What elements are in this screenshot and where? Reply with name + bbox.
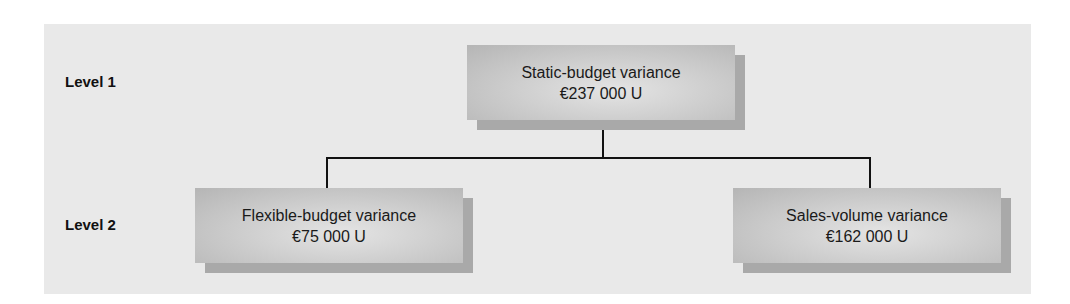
node-box: Sales-volume variance €162 000 U bbox=[733, 188, 1001, 263]
node-flexible-budget-variance: Flexible-budget variance €75 000 U bbox=[195, 188, 463, 263]
node-value: €75 000 U bbox=[292, 226, 366, 247]
node-box: Flexible-budget variance €75 000 U bbox=[195, 188, 463, 263]
level-2-label: Level 2 bbox=[65, 216, 116, 233]
level-1-label: Level 1 bbox=[65, 73, 116, 90]
node-box: Static-budget variance €237 000 U bbox=[467, 45, 735, 120]
connector-horizontal bbox=[326, 157, 871, 159]
node-value: €237 000 U bbox=[560, 83, 643, 104]
connector-left-drop bbox=[326, 157, 328, 188]
node-title: Sales-volume variance bbox=[786, 205, 948, 226]
node-value: €162 000 U bbox=[826, 226, 909, 247]
connector-right-drop bbox=[869, 157, 871, 188]
node-static-budget-variance: Static-budget variance €237 000 U bbox=[467, 45, 735, 120]
node-sales-volume-variance: Sales-volume variance €162 000 U bbox=[733, 188, 1001, 263]
node-title: Static-budget variance bbox=[521, 62, 680, 83]
connector-trunk bbox=[602, 130, 604, 159]
node-title: Flexible-budget variance bbox=[242, 205, 416, 226]
